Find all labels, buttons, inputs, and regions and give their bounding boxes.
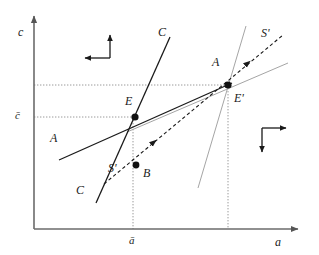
point-B — [133, 162, 140, 169]
point-label-E: E — [125, 95, 132, 107]
axes — [34, 16, 298, 229]
point-E — [131, 113, 138, 120]
phase-diagram-figure: c a c̄ ā E E' B C C A A S' S' — [0, 0, 319, 255]
point-label-Eprime: E' — [234, 92, 244, 104]
x-axis-label: a — [275, 236, 281, 248]
point-Eprime — [224, 81, 231, 88]
curve-label-C-lower: C — [76, 184, 84, 196]
lower-right-direction-field — [262, 128, 286, 152]
shifted-schedules — [127, 26, 288, 188]
curve-C-new-schedule — [198, 26, 246, 188]
y-axis-label: c — [18, 26, 23, 38]
x-tick-label-a-bar: ā — [129, 235, 135, 246]
saddle-arrow-upper — [237, 63, 248, 72]
y-tick-label-c-bar: c̄ — [15, 110, 20, 121]
point-label-B: B — [143, 167, 150, 179]
curve-label-Sprime-upper: S' — [261, 27, 270, 39]
upper-left-direction-field — [85, 35, 110, 58]
curve-A-schedule — [59, 83, 232, 160]
curve-label-A-upper: A — [212, 56, 219, 68]
curve-label-A-lower: A — [50, 132, 57, 144]
saddle-path-group — [104, 35, 283, 184]
curve-S-saddle-path — [104, 35, 283, 184]
curve-label-Sprime-lower: S' — [108, 162, 117, 174]
curve-label-C-upper: C — [158, 26, 166, 38]
